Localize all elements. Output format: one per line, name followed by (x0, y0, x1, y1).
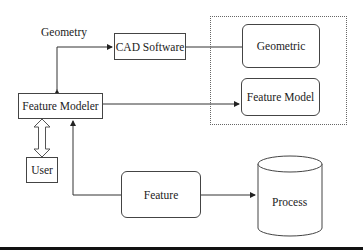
user-node: User (26, 157, 58, 183)
feature-modeler-node: Feature Modeler (18, 93, 103, 119)
feature-node: Feature (121, 171, 201, 218)
geometric-node: Geometric (242, 24, 320, 68)
feature-to-modeler-arrow (73, 121, 121, 195)
geometry-connector (57, 47, 112, 90)
geometry-label: Geometry (41, 26, 87, 38)
feature-model-node: Feature Model (241, 78, 320, 116)
cad-software-node: CAD Software (114, 33, 186, 60)
process-label: Process (272, 196, 307, 208)
user-double-arrow-icon (34, 119, 50, 157)
